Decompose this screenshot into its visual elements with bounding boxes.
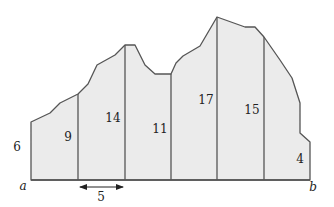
- strip-area-diagram: 6 9 14 11 17 15 4 a b 5: [0, 0, 334, 207]
- height-label-1: 9: [64, 130, 72, 144]
- endpoint-a-label: a: [19, 179, 26, 193]
- height-label-6: 4: [296, 152, 304, 166]
- height-label-4: 17: [198, 93, 213, 107]
- height-label-5: 15: [244, 103, 259, 117]
- strip-width-label: 5: [97, 190, 105, 204]
- height-label-2: 14: [105, 111, 121, 125]
- height-label-3: 11: [152, 122, 167, 136]
- endpoint-b-label: b: [309, 180, 317, 194]
- height-label-0: 6: [13, 140, 21, 154]
